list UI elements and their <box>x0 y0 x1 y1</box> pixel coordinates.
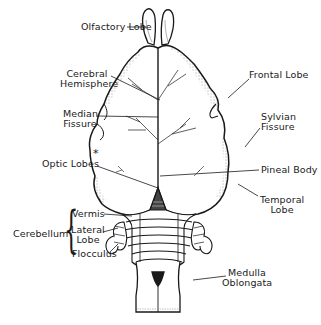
label-temporal-lobe-line2: Lobe <box>260 205 304 215</box>
label-pineal-body: Pineal Body <box>261 165 318 175</box>
medulla-drawing <box>136 262 180 312</box>
label-optic-lobes: Optic Lobes <box>42 159 99 169</box>
label-sylvian-fissure-line2: Fissure <box>261 122 295 132</box>
label-median-fissure-line2: Fissure <box>63 119 97 129</box>
label-cerebral-hemisphere-line2: Hemisphere <box>60 79 114 89</box>
label-lateral-lobe-line2: Lobe <box>71 235 105 245</box>
cerebellum-drawing <box>106 210 212 268</box>
label-flocculus: Flocculus <box>72 249 117 259</box>
label-vermis: Vermis <box>72 209 105 219</box>
label-olfactory-lobe: Olfactory Lobe <box>81 22 152 32</box>
label-cerebellum: Cerebellum <box>13 229 68 239</box>
label-medulla-oblongata-line2: Oblongata <box>222 278 272 288</box>
label-frontal-lobe: Frontal Lobe <box>249 70 309 80</box>
